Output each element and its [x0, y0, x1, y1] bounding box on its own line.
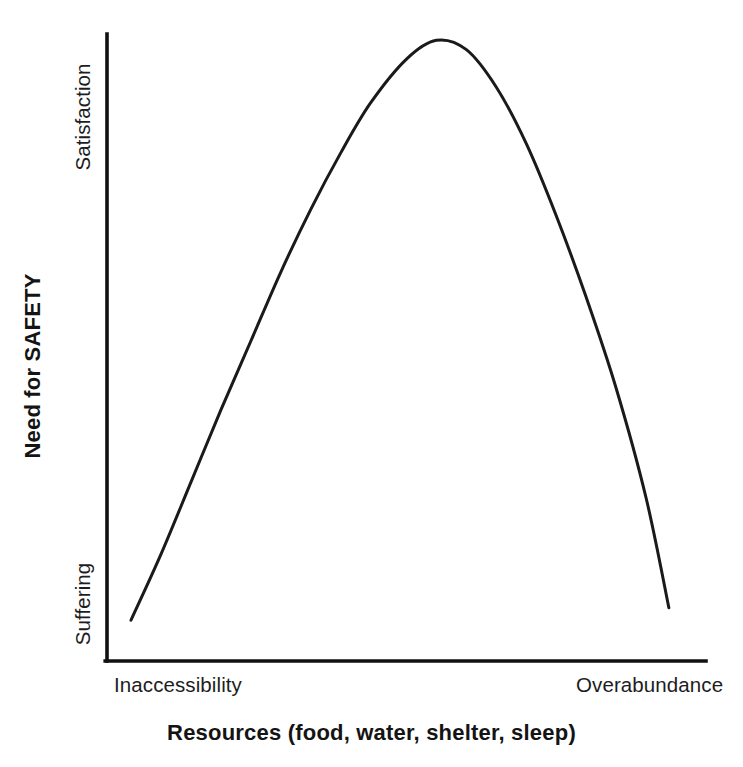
chart-plot-area	[0, 0, 743, 767]
y-axis-title: Need for SAFETY	[22, 273, 44, 458]
y-tick-label-satisfaction: Satisfaction	[73, 63, 94, 170]
data-curve-need-for-safety	[131, 40, 669, 620]
x-axis-title: Resources (food, water, shelter, sleep)	[0, 722, 743, 744]
x-tick-label-inaccessibility: Inaccessibility	[114, 675, 242, 696]
x-tick-label-overabundance: Overabundance	[576, 675, 723, 696]
y-tick-label-suffering: Suffering	[73, 563, 94, 646]
chart-figure: Satisfaction Suffering Need for SAFETY I…	[0, 0, 743, 767]
